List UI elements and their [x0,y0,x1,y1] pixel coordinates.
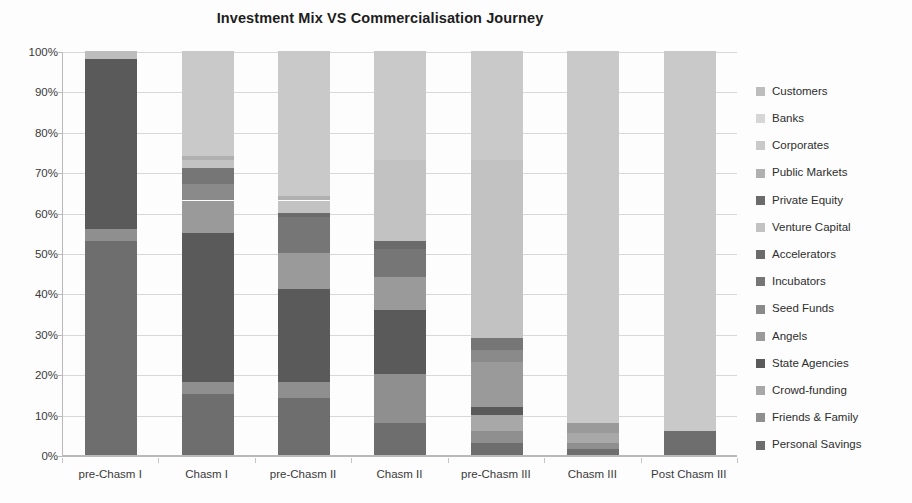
bar-segment[interactable] [471,431,523,443]
legend-label: Venture Capital [772,222,851,234]
gridline [63,456,737,457]
bar-segment[interactable] [471,338,523,350]
stacked-bar[interactable] [664,52,716,455]
chart-legend: CustomersBanksCorporatesPublic MarketsPr… [756,78,906,459]
x-axis-tick-label: pre-Chasm I [79,468,142,480]
y-axis-tick-label: 90% [6,86,58,98]
bar-segment[interactable] [567,51,619,423]
bar-segment[interactable] [374,160,426,241]
bar-segment[interactable] [664,431,716,455]
x-axis-tick-label: pre-Chasm II [270,468,336,480]
legend-item[interactable]: State Agencies [756,350,906,377]
bar-slot [63,52,159,455]
legend-item[interactable]: Banks [756,105,906,132]
legend-item[interactable]: Corporates [756,132,906,159]
chart-title: Investment Mix VS Commercialisation Jour… [0,10,760,26]
bar-segment[interactable] [182,201,234,233]
legend-swatch-icon [756,196,765,205]
y-axis-tick-label: 40% [6,288,58,300]
legend-item[interactable]: Customers [756,78,906,105]
legend-swatch-icon [756,141,765,150]
bar-segment[interactable] [567,433,619,443]
legend-item[interactable]: Accelerators [756,241,906,268]
legend-item[interactable]: Private Equity [756,187,906,214]
bar-segment[interactable] [85,59,137,229]
chart-root: Investment Mix VS Commercialisation Jour… [0,0,912,503]
bar-group [63,52,737,455]
stacked-bar[interactable] [85,52,137,455]
bar-segment[interactable] [278,289,330,382]
bar-segment[interactable] [85,241,137,455]
bar-segment[interactable] [471,160,523,338]
legend-item[interactable]: Friends & Family [756,404,906,431]
legend-item[interactable]: Crowd-funding [756,377,906,404]
bar-segment[interactable] [182,394,234,455]
bar-segment[interactable] [278,382,330,398]
stacked-bar[interactable] [471,52,523,455]
x-axis-tick-mark [255,458,256,463]
legend-item[interactable]: Incubators [756,268,906,295]
bar-segment[interactable] [278,196,330,200]
bar-segment[interactable] [278,201,330,213]
plot-area [62,52,737,456]
legend-label: State Agencies [772,358,849,370]
y-axis-tick-label: 70% [6,167,58,179]
bar-segment[interactable] [85,229,137,241]
legend-item[interactable]: Venture Capital [756,214,906,241]
bar-segment[interactable] [567,449,619,455]
bar-segment[interactable] [182,51,234,156]
bar-segment[interactable] [182,160,234,168]
bar-segment[interactable] [374,374,426,422]
bar-segment[interactable] [85,51,137,59]
stacked-bar[interactable] [278,52,330,455]
bar-segment[interactable] [374,249,426,277]
bar-segment[interactable] [278,398,330,455]
bar-segment[interactable] [471,51,523,160]
bar-segment[interactable] [182,382,234,394]
bar-segment[interactable] [567,443,619,449]
bar-segment[interactable] [374,51,426,160]
y-axis-tick-label: 80% [6,127,58,139]
bar-segment[interactable] [664,51,716,431]
legend-item[interactable]: Public Markets [756,160,906,187]
x-axis-tick-mark [62,458,63,463]
legend-label: Personal Savings [772,439,862,451]
bar-segment[interactable] [567,423,619,433]
bar-segment[interactable] [374,277,426,309]
bar-segment[interactable] [471,362,523,406]
bar-slot [159,52,255,455]
bar-segment[interactable] [471,415,523,431]
legend-swatch-icon [756,277,765,286]
bar-segment[interactable] [182,156,234,160]
x-axis-tick-label: Post Chasm III [651,468,726,480]
bar-segment[interactable] [182,233,234,382]
legend-swatch-icon [756,250,765,259]
legend-item[interactable]: Angels [756,323,906,350]
bar-segment[interactable] [278,213,330,217]
bar-segment[interactable] [471,443,523,455]
legend-swatch-icon [756,114,765,123]
stacked-bar[interactable] [567,52,619,455]
legend-item[interactable]: Personal Savings [756,431,906,458]
bar-segment[interactable] [471,350,523,362]
bar-segment[interactable] [374,241,426,249]
bar-segment[interactable] [182,184,234,200]
bar-segment[interactable] [278,51,330,196]
bar-segment[interactable] [278,253,330,289]
legend-swatch-icon [756,223,765,232]
stacked-bar[interactable] [182,52,234,455]
legend-label: Corporates [772,140,829,152]
bar-segment[interactable] [471,407,523,415]
x-axis-tick-label: Chasm II [376,468,422,480]
y-axis-tick-label: 50% [6,248,58,260]
y-axis-tick-label: 0% [6,450,58,462]
y-axis-tick-label: 10% [6,410,58,422]
bar-segment[interactable] [278,217,330,253]
legend-label: Angels [772,331,807,343]
bar-segment[interactable] [374,423,426,455]
x-axis: pre-Chasm IChasm Ipre-Chasm IIChasm IIpr… [62,458,737,488]
legend-item[interactable]: Seed Funds [756,296,906,323]
bar-segment[interactable] [182,168,234,184]
bar-segment[interactable] [374,310,426,375]
stacked-bar[interactable] [374,52,426,455]
